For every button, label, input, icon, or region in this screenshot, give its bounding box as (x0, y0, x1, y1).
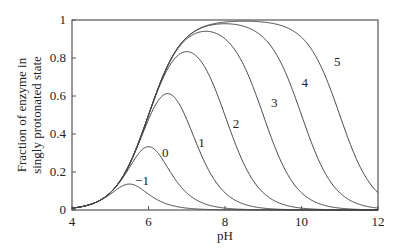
x-tick-label: 12 (372, 214, 385, 229)
curve-label-0: 0 (162, 145, 169, 160)
curve-label-1: 1 (198, 135, 205, 150)
y-tick-label: 0.6 (50, 88, 67, 103)
plot-area: 468101200.20.40.60.81pHFraction of enzym… (0, 0, 404, 252)
curve-1 (72, 94, 378, 210)
chart: 468101200.20.40.60.81pHFraction of enzym… (0, 0, 404, 252)
curve-label-5: 5 (334, 54, 341, 69)
curve-label-2: 2 (233, 116, 240, 131)
y-tick-label: 1 (60, 12, 67, 27)
curve-label-3: 3 (271, 95, 278, 110)
x-tick-label: 6 (145, 214, 152, 229)
y-tick-label: 0 (60, 202, 67, 217)
y-axis-label: Fraction of enzyme in (14, 57, 29, 172)
curve-3 (72, 31, 378, 210)
y-tick-label: 0.2 (50, 164, 66, 179)
curve-0 (72, 147, 378, 210)
y-tick-label: 0.4 (50, 126, 67, 141)
x-tick-label: 4 (69, 214, 76, 229)
curve-label--1: −1 (135, 173, 149, 188)
x-tick-label: 8 (222, 214, 229, 229)
x-axis-label: pH (217, 228, 233, 243)
curve-label-4: 4 (302, 75, 309, 90)
y-tick-label: 0.8 (50, 50, 66, 65)
x-tick-label: 10 (295, 214, 308, 229)
y-axis-label: singly protonated state (29, 56, 44, 174)
curve-2 (72, 52, 378, 210)
